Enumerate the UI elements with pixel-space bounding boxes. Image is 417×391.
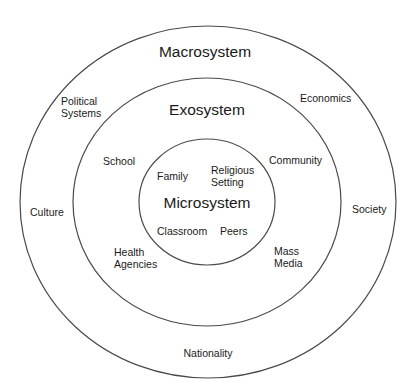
label-line: Religious <box>211 164 254 176</box>
macrosystem-title: Macrosystem <box>159 43 251 61</box>
exosystem-title: Exosystem <box>169 101 245 119</box>
label-school: School <box>103 155 135 167</box>
label-line: Mass <box>274 245 303 257</box>
label-line: Systems <box>61 107 101 119</box>
label-health-agencies: Health Agencies <box>114 246 157 270</box>
label-economics: Economics <box>300 92 351 104</box>
label-line: Agencies <box>114 258 157 270</box>
label-religious-setting: Religious Setting <box>211 164 254 188</box>
label-nationality: Nationality <box>183 347 232 359</box>
label-line: Health <box>114 246 157 258</box>
label-community: Community <box>269 154 322 166</box>
label-line: Political <box>61 95 101 107</box>
label-line: Setting <box>211 176 254 188</box>
label-culture: Culture <box>30 206 64 218</box>
label-line: Media <box>274 257 303 269</box>
label-political-systems: Political Systems <box>61 95 101 119</box>
label-classroom: Classroom <box>157 225 207 237</box>
label-family: Family <box>157 170 188 182</box>
microsystem-title: Microsystem <box>164 194 251 212</box>
label-mass-media: Mass Media <box>274 245 303 269</box>
label-peers: Peers <box>220 225 247 237</box>
label-society: Society <box>352 203 386 215</box>
